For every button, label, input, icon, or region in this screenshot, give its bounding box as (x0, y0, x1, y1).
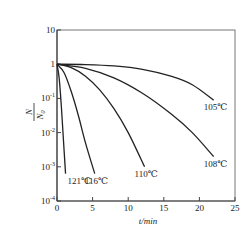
y-tick-label: 1 (51, 59, 56, 69)
x-tick-label: 0 (55, 203, 60, 213)
x-tick-label: 25 (231, 203, 241, 213)
series-label: 110℃ (135, 169, 158, 179)
series-line-110 (57, 64, 145, 167)
series-label: 108℃ (204, 159, 228, 169)
x-tick-label: 10 (124, 203, 134, 213)
x-tick-label: 20 (195, 203, 205, 213)
y-axis-label-denominator: N0 (35, 110, 46, 120)
y-tick-label: 10 (46, 25, 56, 35)
x-axis-label: t/min (139, 216, 158, 226)
x-tick-label: 15 (159, 203, 169, 213)
series-line-108 (57, 64, 214, 156)
x-axis: 0510152025 (55, 197, 240, 213)
series-line-121 (57, 64, 66, 173)
y-axis-label-numerator: N (24, 108, 34, 116)
series-group (57, 64, 214, 173)
y-tick-label: 10-1 (41, 92, 55, 103)
y-tick-label: 10-3 (41, 161, 55, 172)
y-axis-label: N N0 (24, 103, 46, 121)
series-label: 105℃ (204, 102, 228, 112)
y-tick-label: 10-4 (41, 195, 55, 206)
x-tick-label: 5 (90, 203, 95, 213)
series-line-105 (57, 64, 214, 100)
chart: 0510152025 10110-110-210-310-4 121℃116℃1… (0, 0, 251, 238)
y-tick-label: 10-2 (41, 127, 55, 138)
series-label: 116℃ (85, 176, 108, 186)
